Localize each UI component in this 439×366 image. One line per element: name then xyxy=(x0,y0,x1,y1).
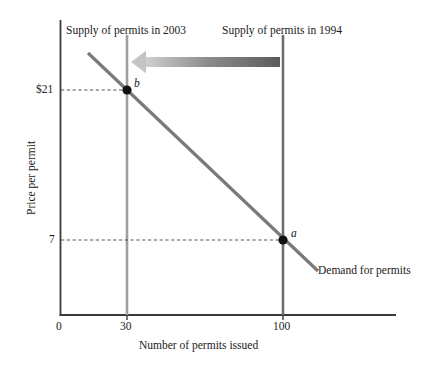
supply-2003-label: Supply of permits in 2003 xyxy=(66,25,186,37)
supply-1994-label: Supply of permits in 1994 xyxy=(222,25,342,37)
y-axis-title: Price per permit xyxy=(26,141,38,215)
x-tick-label-0: 0 xyxy=(56,321,62,333)
demand-curve-label: Demand for permits xyxy=(318,265,411,277)
chart-canvas xyxy=(0,0,439,366)
x-axis-title: Number of permits issued xyxy=(139,340,258,352)
x-tick-label-30: 30 xyxy=(120,321,132,333)
equilibrium-point-a xyxy=(278,235,287,244)
equilibrium-point-b xyxy=(122,85,131,94)
y-tick-label-21: $21 xyxy=(36,84,53,96)
y-tick-label-7: 7 xyxy=(49,234,55,246)
point-b-label: b xyxy=(134,78,140,90)
permits-market-chart: Supply of permits in 2003 Supply of perm… xyxy=(0,0,439,366)
x-tick-label-100: 100 xyxy=(273,321,290,333)
shift-arrow-icon xyxy=(131,51,280,74)
point-a-label: a xyxy=(291,228,297,240)
